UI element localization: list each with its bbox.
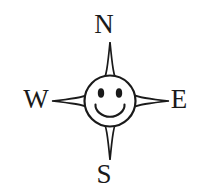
cardinal-label-east: E	[164, 86, 194, 113]
cardinal-label-north: N	[2, 11, 206, 38]
smiley-face-circle	[85, 76, 136, 127]
cardinal-label-south: S	[2, 161, 206, 188]
cardinal-label-west: W	[20, 86, 52, 113]
smiley-right-eye-icon	[116, 88, 122, 97]
smiley-left-eye-icon	[98, 88, 104, 97]
compass-rose-figure: N S W E	[0, 0, 206, 194]
